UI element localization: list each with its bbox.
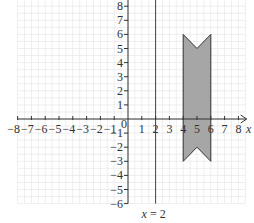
x-tick-label: −2 [90, 122, 103, 136]
y-tick-label: −4 [110, 168, 123, 182]
x-tick-label: −6 [35, 122, 48, 136]
x-axis-label: x [245, 122, 252, 136]
line-label: x = 2 [141, 207, 166, 221]
y-tick-label: 7 [117, 13, 123, 27]
x-tick-label: 5 [194, 122, 200, 136]
x-tick-label: 4 [180, 122, 186, 136]
x-tick-label: −5 [49, 122, 62, 136]
origin-label: 0 [121, 117, 127, 131]
x-tick-label: 2 [153, 122, 159, 136]
x-tick-label: 1 [139, 122, 145, 136]
y-tick-label: −3 [110, 154, 123, 168]
shaded-polygon [183, 34, 211, 161]
x-tick-label: 7 [222, 122, 228, 136]
x-tick-label: 6 [208, 122, 214, 136]
x-tick-label: 3 [166, 122, 172, 136]
coordinate-plane: −8−7−6−5−4−3−2−112345678 87654321−1−2−3−… [0, 0, 254, 223]
y-tick-label: −2 [110, 140, 123, 154]
y-tick-label: 2 [117, 84, 123, 98]
y-tick-label: −6 [110, 197, 123, 211]
x-tick-label: 8 [235, 122, 241, 136]
x-tick-label: −3 [76, 122, 89, 136]
x-tick-label: −8 [7, 122, 20, 136]
y-tick-label: 5 [117, 42, 123, 56]
y-tick-label: 4 [117, 56, 123, 70]
y-tick-label: 6 [117, 27, 123, 41]
y-tick-label: −5 [110, 183, 123, 197]
x-tick-label: −7 [21, 122, 34, 136]
x-tick-label: −4 [62, 122, 75, 136]
y-tick-label: 3 [117, 70, 123, 84]
y-tick-label: 1 [117, 98, 123, 112]
y-ticks: 87654321−1−2−3−4−5−6 [110, 0, 128, 211]
y-tick-label: 8 [117, 0, 123, 13]
